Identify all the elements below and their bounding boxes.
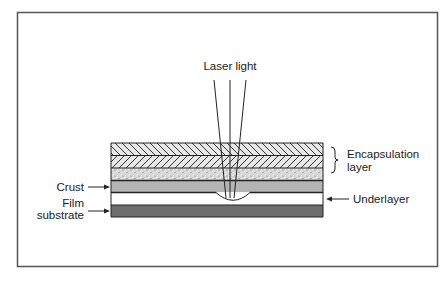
encapsulation-label-line1: Encapsulation <box>347 148 419 160</box>
film-substrate-label-line2: substrate <box>37 209 84 221</box>
diagram-canvas: Laser light Encapsulation layer Crust Fi… <box>0 0 446 282</box>
layer-stack <box>111 143 323 217</box>
film-substrate-label-line1: Film <box>62 197 84 209</box>
encapsulation-hatch-layer-1 <box>111 143 323 156</box>
underlayer <box>111 193 323 206</box>
underlayer-label: Underlayer <box>353 193 409 205</box>
figure-frame <box>18 13 438 267</box>
encapsulation-label-line2: layer <box>347 161 372 173</box>
encapsulation-speckle-layer <box>111 168 323 181</box>
laser-light-label: Laser light <box>203 60 257 72</box>
film-substrate-layer <box>111 205 323 217</box>
crust-layer <box>111 181 323 193</box>
crust-label: Crust <box>57 181 85 193</box>
encapsulation-hatch-layer-2 <box>111 156 323 169</box>
